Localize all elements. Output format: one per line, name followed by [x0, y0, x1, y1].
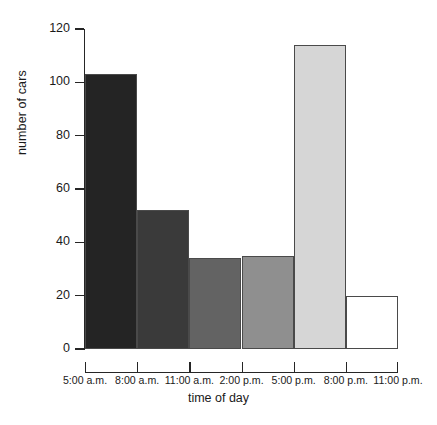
x-axis-tick — [189, 362, 190, 373]
y-axis-tick — [75, 348, 84, 349]
bar — [85, 74, 137, 349]
y-axis-tick-label: 40 — [10, 234, 70, 248]
y-axis-tick-label: 20 — [10, 288, 70, 302]
bar — [137, 210, 189, 349]
x-axis-tick — [85, 362, 86, 373]
y-axis-tick-label: 80 — [10, 128, 70, 142]
x-axis-ruler — [85, 362, 398, 373]
y-axis-tick — [75, 242, 84, 243]
plot-area — [85, 29, 398, 349]
y-axis-tick-label: 0 — [10, 341, 70, 355]
bar — [189, 258, 241, 349]
x-axis-tick — [397, 362, 398, 373]
x-axis-tick — [137, 362, 138, 373]
x-axis-tick — [346, 362, 347, 373]
bar — [346, 296, 398, 349]
y-axis-tick-label: 120 — [10, 21, 70, 35]
bar — [242, 256, 294, 349]
y-axis-tick-label: 100 — [10, 74, 70, 88]
x-axis-tick-label: 11:00 p.m. — [353, 374, 437, 386]
y-axis-tick — [75, 295, 84, 296]
bar — [294, 45, 346, 349]
y-axis-tick-label: 60 — [10, 181, 70, 195]
histogram-chart: number of cars 020406080100120 5:00 a.m.… — [0, 0, 437, 425]
y-axis-tick — [75, 28, 84, 29]
y-axis-tick — [75, 82, 84, 83]
y-axis-tick — [75, 188, 84, 189]
y-axis-tick — [75, 135, 84, 136]
x-axis-title: time of day — [0, 391, 437, 405]
x-axis-tick — [242, 362, 243, 373]
x-axis-tick — [294, 362, 295, 373]
